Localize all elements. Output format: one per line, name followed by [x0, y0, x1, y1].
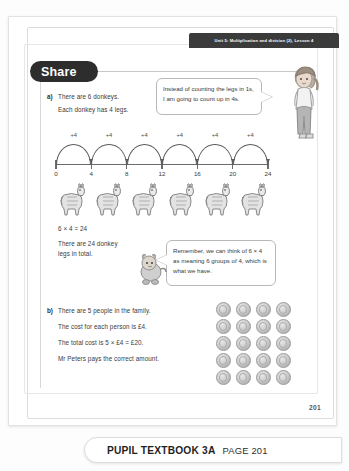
- unit-banner: Unit 5: Multiplication and division (2),…: [189, 33, 339, 48]
- share-heading-pill: Share: [30, 61, 98, 82]
- number-line-label: 20: [229, 170, 236, 177]
- mascot-speech-text: Remember, we can think of 6 × 4 as meani…: [173, 246, 269, 276]
- number-line-jump-arc: [233, 144, 268, 165]
- coin-icon: [216, 353, 231, 368]
- coin-icon: [276, 353, 291, 368]
- part-a-total-line1: There are 24 donkey: [58, 240, 118, 247]
- donkey-icon: [56, 183, 87, 217]
- coin-icon: [236, 353, 251, 368]
- coin-icon: [256, 370, 271, 385]
- page-number: 201: [309, 404, 321, 411]
- number-line-jump-label: +4: [176, 132, 183, 138]
- share-heading-label: Share: [41, 65, 77, 79]
- textbook-page: Unit 5: Multiplication and division (2),…: [0, 0, 349, 471]
- coin-icon: [276, 370, 291, 385]
- coin-icon: [256, 336, 271, 351]
- number-line-label: 0: [54, 170, 57, 177]
- donkey-icon: [92, 183, 123, 217]
- girl-speech-text: Instead of counting the legs in 1s, I am…: [163, 84, 255, 104]
- number-line-jump-arc: [127, 144, 162, 165]
- number-line-jump-arc: [56, 144, 91, 165]
- coin-grid: [213, 301, 293, 387]
- number-line: 04812162024+4+4+4+4+4+4: [56, 130, 268, 178]
- number-line-label: 24: [265, 170, 272, 177]
- mascot-speech-bubble: Remember, we can think of 6 × 4 as meani…: [166, 240, 276, 286]
- girl-character-icon: [280, 62, 328, 152]
- coin-icon: [256, 302, 271, 317]
- number-line-jump-arc: [197, 144, 232, 165]
- part-a-label: a): [47, 93, 53, 100]
- part-a-line2: Each donkey has 4 legs.: [58, 106, 128, 113]
- coin-icon: [236, 319, 251, 334]
- part-b-line3: The total cost is 5 × £4 = £20.: [58, 339, 143, 346]
- coin-icon: [236, 336, 251, 351]
- share-drop-line: [40, 82, 41, 388]
- donkey-row: [56, 183, 268, 219]
- unit-banner-text: Unit 5: Multiplication and division (2),…: [215, 38, 314, 43]
- number-line-label: 4: [90, 170, 93, 177]
- girl-speech-bubble: Instead of counting the legs in 1s, I am…: [156, 78, 262, 115]
- part-b-line2: The cost for each person is £4.: [58, 323, 147, 330]
- number-line-jump-arc: [91, 144, 126, 165]
- number-line-jump-label: +4: [70, 132, 77, 138]
- coin-icon: [276, 302, 291, 317]
- footer-tab: PUPIL TEXTBOOK 3A PAGE 201: [84, 437, 342, 463]
- multiplication-equation: 6 × 4 = 24: [58, 225, 87, 232]
- donkey-icon: [128, 183, 159, 217]
- donkey-icon: [165, 183, 196, 217]
- part-b-line4: Mr Peters pays the correct amount.: [58, 355, 159, 362]
- number-line-jump-label: +4: [106, 132, 113, 138]
- girl-bubble-tail: [261, 92, 272, 102]
- coin-icon: [216, 302, 231, 317]
- number-line-jump-label: +4: [247, 132, 254, 138]
- coin-icon: [216, 319, 231, 334]
- coin-icon: [256, 353, 271, 368]
- number-line-jump-label: +4: [141, 132, 148, 138]
- number-line-label: 16: [194, 170, 201, 177]
- coin-icon: [256, 319, 271, 334]
- coin-icon: [276, 319, 291, 334]
- footer-book-title: PUPIL TEXTBOOK 3A: [107, 445, 216, 456]
- share-rule: [96, 71, 306, 72]
- coin-icon: [216, 370, 231, 385]
- donkey-icon: [237, 183, 268, 217]
- coin-icon: [236, 302, 251, 317]
- coin-icon: [236, 370, 251, 385]
- coin-icon: [276, 336, 291, 351]
- part-a-total-line2: legs in total.: [58, 250, 93, 257]
- number-line-label: 8: [125, 170, 128, 177]
- mascot-character-icon: [136, 252, 170, 286]
- footer-page-label: PAGE 201: [223, 445, 268, 456]
- number-line-jump-arrow: [266, 159, 270, 163]
- part-a-line1: There are 6 donkeys.: [58, 93, 119, 100]
- number-line-jump-arc: [162, 144, 197, 165]
- coin-icon: [216, 336, 231, 351]
- number-line-jump-label: +4: [212, 132, 219, 138]
- part-b-label: b): [47, 307, 53, 314]
- part-b-line1: There are 5 people in the family.: [58, 307, 150, 314]
- number-line-label: 12: [159, 170, 166, 177]
- donkey-icon: [201, 183, 232, 217]
